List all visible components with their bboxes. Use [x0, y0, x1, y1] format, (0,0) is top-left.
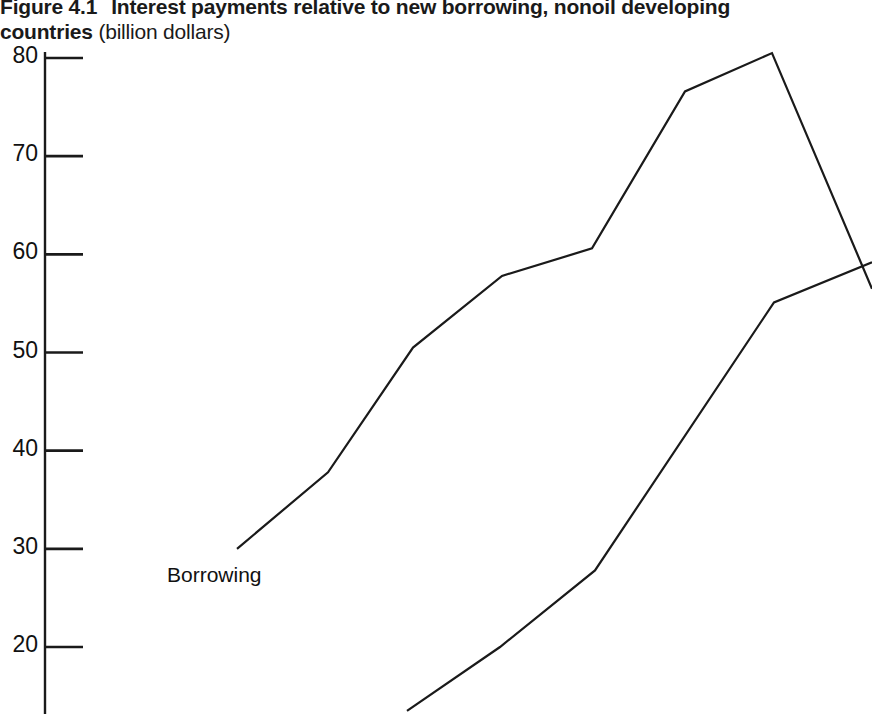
line-series-interest-payments: [407, 262, 872, 711]
y-axis-tick-marks: [45, 58, 83, 647]
plot-area: 80706050403020 Borrowing: [0, 0, 872, 714]
figure-container: Figure 4.1Interest payments relative to …: [0, 0, 872, 714]
chart-svg: [0, 0, 872, 714]
